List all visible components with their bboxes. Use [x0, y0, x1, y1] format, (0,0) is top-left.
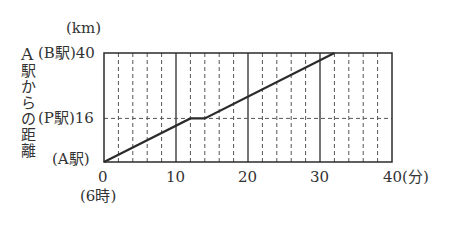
b-station-label: (B駅) — [38, 44, 76, 62]
time-origin-note: (6時) — [80, 189, 116, 204]
y-axis-title-char: 距 — [21, 128, 36, 143]
b-value-label: 40 — [76, 44, 95, 62]
y-unit-label: (km) — [66, 21, 101, 36]
y-axis-title-char: A — [21, 46, 33, 63]
y-axis-title-char: の — [21, 112, 36, 127]
y-axis-title-char: か — [21, 80, 36, 95]
p-station-label: (P駅) — [38, 109, 75, 127]
x-tick-40: 40(分) — [383, 170, 429, 185]
y-axis-title-char: ら — [21, 96, 36, 111]
x-tick-30: 30 — [310, 170, 329, 185]
p-value-label: 16 — [75, 109, 94, 127]
x-tick-20: 20 — [238, 170, 257, 185]
y-tick-a-station: (A駅) — [52, 152, 90, 167]
grid-lines — [104, 53, 392, 162]
y-tick-p-station: (P駅)16 — [38, 111, 94, 126]
x-tick-10: 10 — [166, 170, 185, 185]
x-tick-0: 0 — [98, 170, 108, 185]
y-axis-title-char: 離 — [21, 144, 36, 159]
y-axis-title-char: 駅 — [21, 64, 36, 79]
y-tick-b-station: (B駅)40 — [38, 46, 95, 61]
